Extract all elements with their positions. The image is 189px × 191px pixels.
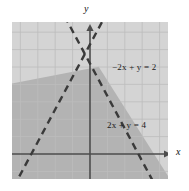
graph-canvas [12,22,168,179]
coordinate-plane [12,22,168,179]
equation-label-line-1: −2x + y = 2 [112,62,156,72]
equation-label-line-2: 2x + y = 4 [107,120,146,130]
y-axis-label: y [84,3,88,14]
x-axis-label: x [176,146,180,157]
inequality-graph-figure: −2x + y = 2 2x + y = 4 x y [0,0,189,191]
